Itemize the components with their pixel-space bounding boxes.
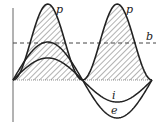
power-label-1: p: [56, 3, 63, 16]
current-label: i: [112, 89, 116, 102]
power-waveform-diagram: p p b i e: [0, 0, 157, 131]
power-label-2: p: [126, 3, 133, 16]
voltage-label: e: [111, 104, 118, 117]
average-line-label: b: [146, 30, 153, 43]
